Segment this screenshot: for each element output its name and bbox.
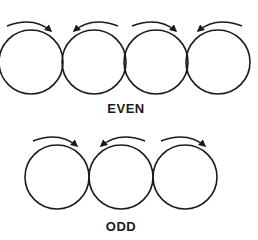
gear-circle — [0, 30, 63, 94]
gear-circle — [89, 145, 153, 209]
gear-circle — [124, 30, 188, 94]
gear-circle — [186, 30, 250, 94]
gear-circle — [62, 30, 126, 94]
odd-label: ODD — [81, 219, 161, 234]
even-label: EVEN — [86, 101, 166, 116]
gear-circle — [25, 145, 89, 209]
even-gear-row — [0, 22, 250, 94]
gear-circle — [153, 145, 217, 209]
odd-gear-row — [25, 137, 217, 209]
gear-diagram — [0, 0, 258, 240]
